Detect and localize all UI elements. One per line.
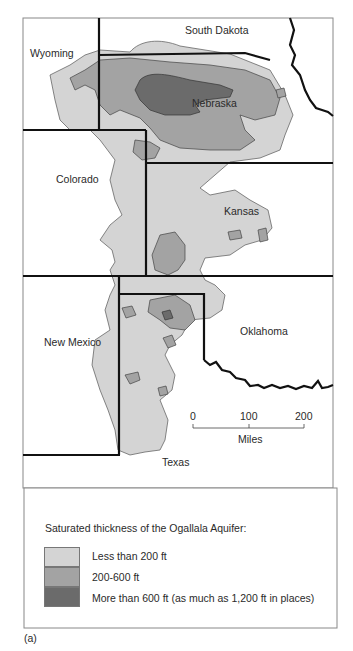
scale-tick-200: 200: [295, 410, 313, 422]
legend-label-light: Less than 200 ft: [92, 550, 167, 562]
label-oklahoma: Oklahoma: [240, 325, 288, 337]
label-new-mexico: New Mexico: [44, 336, 101, 348]
scale-tick-0: 0: [190, 410, 196, 422]
scale-tick-100: 100: [240, 410, 258, 422]
scale-unit: Miles: [238, 433, 263, 445]
legend-label-medium: 200-600 ft: [92, 571, 139, 583]
legend-swatch-medium: [44, 567, 80, 587]
legend-swatch-dark: [44, 587, 80, 607]
figure-caption: (a): [24, 632, 37, 644]
label-colorado: Colorado: [56, 173, 99, 185]
legend-title: Saturated thickness of the Ogallala Aqui…: [45, 522, 246, 534]
label-nebraska: Nebraska: [192, 97, 237, 109]
legend-label-dark: More than 600 ft (as much as 1,200 ft in…: [92, 592, 314, 604]
label-south-dakota: South Dakota: [185, 24, 249, 36]
label-wyoming: Wyoming: [30, 47, 74, 59]
label-texas: Texas: [162, 456, 189, 468]
label-kansas: Kansas: [224, 205, 259, 217]
legend-swatch-light: [44, 547, 80, 567]
